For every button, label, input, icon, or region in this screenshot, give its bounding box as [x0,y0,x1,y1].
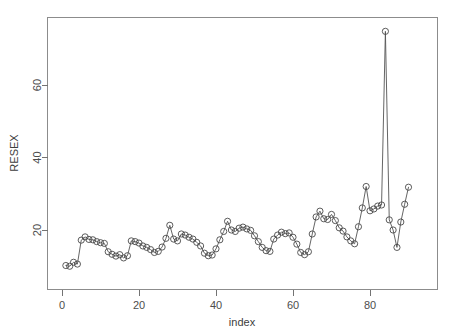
x-tick-label: 60 [287,299,299,311]
x-tick-label: 0 [59,299,65,311]
y-tick-label: 40 [31,151,43,163]
data-series-points [63,28,412,269]
chart-figure: 204060 020406080 RESEX index [0,0,462,336]
x-tick-label: 20 [133,299,145,311]
x-axis-tick-labels: 020406080 [59,299,376,311]
y-axis-tick-labels: 204060 [31,79,43,236]
chart-canvas: 204060 020406080 RESEX index [0,0,462,336]
y-tick-label: 60 [31,79,43,91]
x-axis-ticks [62,290,370,296]
x-tick-label: 80 [364,299,376,311]
x-tick-label: 40 [210,299,222,311]
y-tick-label: 20 [31,224,43,236]
y-axis-title: RESEX [8,134,20,172]
x-axis-title: index [229,316,256,328]
plot-frame [48,18,438,290]
